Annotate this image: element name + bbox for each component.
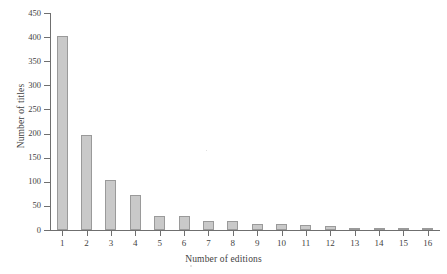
x-tick-mark [306, 231, 307, 236]
scan-speck [190, 265, 192, 267]
x-tick-label: 7 [196, 238, 220, 248]
y-tick-mark [44, 230, 50, 231]
scan-speck [206, 150, 207, 151]
x-tick-mark [87, 231, 88, 236]
bar [422, 228, 433, 230]
y-tick-label: 200 [1, 129, 41, 138]
bar [81, 135, 92, 230]
x-tick-mark [111, 231, 112, 236]
x-tick-mark [330, 231, 331, 236]
x-tick-mark [208, 231, 209, 236]
y-tick-label: 150 [1, 153, 41, 162]
y-tick-label-wrap: 0 [0, 226, 41, 235]
bar [57, 36, 68, 230]
y-tick-label: 100 [1, 177, 41, 186]
x-tick-label: 4 [123, 238, 147, 248]
x-tick-label: 9 [245, 238, 269, 248]
bar [154, 216, 165, 230]
x-tick-label: 11 [294, 238, 318, 248]
x-tick-mark [282, 231, 283, 236]
x-tick-label: 10 [270, 238, 294, 248]
bar [252, 224, 263, 230]
x-tick-mark [135, 231, 136, 236]
bar [398, 228, 409, 230]
bar [227, 221, 238, 230]
y-tick-label: 300 [1, 81, 41, 90]
y-tick-label: 400 [1, 33, 41, 42]
plot-area [50, 13, 440, 230]
y-tick-label: 0 [1, 226, 41, 235]
y-tick-label-wrap: 200 [0, 129, 41, 138]
y-tick-label-wrap: 250 [0, 105, 41, 114]
x-tick-mark [233, 231, 234, 236]
y-tick-label-wrap: 350 [0, 57, 41, 66]
x-tick-label: 16 [416, 238, 440, 248]
y-tick-label: 250 [1, 105, 41, 114]
x-tick-label: 14 [367, 238, 391, 248]
x-tick-mark [428, 231, 429, 236]
x-tick-label: 12 [318, 238, 342, 248]
y-tick-label-wrap: 100 [0, 177, 41, 186]
bar [325, 226, 336, 230]
x-tick-label: 2 [75, 238, 99, 248]
y-tick-label-wrap: 300 [0, 81, 41, 90]
y-tick-label-wrap: 400 [0, 33, 41, 42]
x-tick-label: 13 [343, 238, 367, 248]
x-tick-mark [403, 231, 404, 236]
x-tick-label: 8 [221, 238, 245, 248]
x-tick-label: 15 [391, 238, 415, 248]
x-axis-title: Number of editions [0, 254, 447, 264]
x-tick-mark [62, 231, 63, 236]
bar [203, 221, 214, 230]
x-tick-mark [257, 231, 258, 236]
bar [300, 225, 311, 230]
y-tick-label-wrap: 450 [0, 9, 41, 18]
bar-chart: Number of titles 05010015020025030035040… [0, 0, 447, 274]
bar [105, 180, 116, 230]
x-tick-label: 1 [50, 238, 74, 248]
bar [374, 228, 385, 230]
x-tick-mark [355, 231, 356, 236]
x-tick-label: 3 [99, 238, 123, 248]
x-tick-mark [379, 231, 380, 236]
x-tick-mark [160, 231, 161, 236]
y-tick-label: 50 [1, 201, 41, 210]
x-tick-mark [184, 231, 185, 236]
y-tick-label: 350 [1, 57, 41, 66]
bar [130, 195, 141, 230]
x-axis-line [50, 230, 440, 231]
y-tick-label-wrap: 150 [0, 153, 41, 162]
bar [349, 228, 360, 230]
bar [179, 216, 190, 230]
y-tick-label-wrap: 50 [0, 201, 41, 210]
x-tick-label: 6 [172, 238, 196, 248]
x-tick-label: 5 [148, 238, 172, 248]
bar [276, 224, 287, 230]
y-tick-label: 450 [1, 9, 41, 18]
